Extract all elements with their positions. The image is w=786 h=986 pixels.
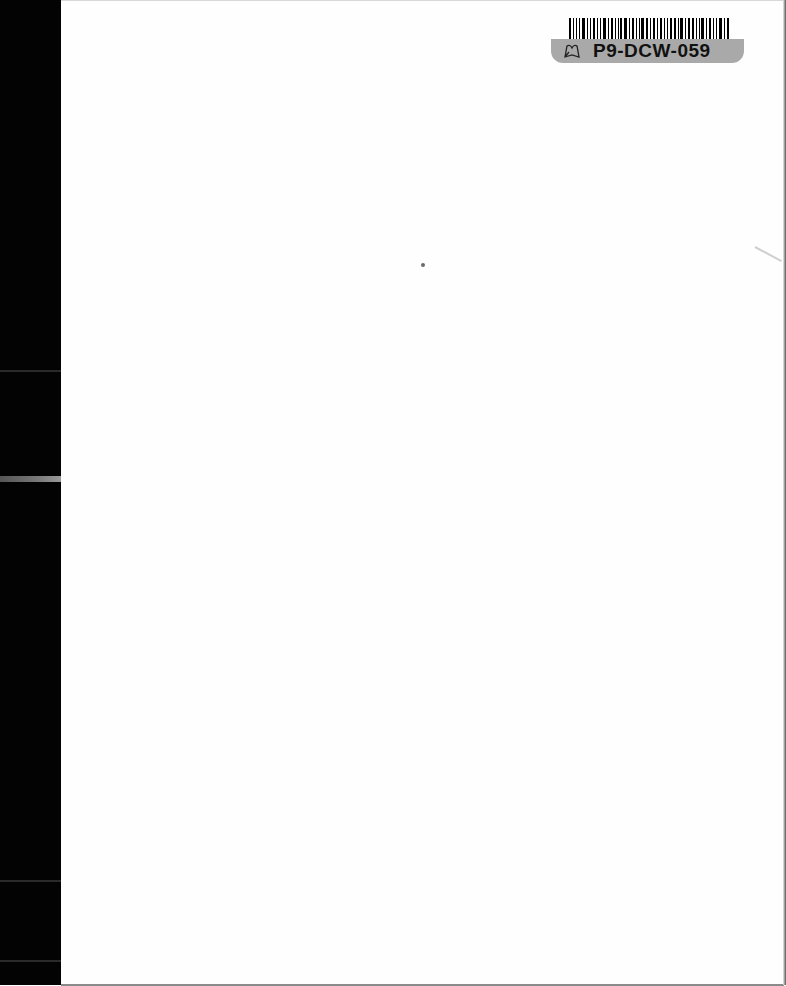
scan-artifact-line	[0, 476, 61, 482]
book-leaf-icon	[563, 43, 581, 59]
barcode-bar	[629, 18, 630, 40]
barcode-bar	[603, 18, 606, 40]
barcode-bar	[611, 18, 613, 40]
barcode-bar	[650, 18, 651, 40]
barcode-bar	[582, 18, 585, 40]
dust-speck	[421, 263, 425, 267]
barcode-bar	[660, 18, 663, 40]
barcode-bar	[653, 18, 655, 40]
barcode-bar	[699, 18, 700, 40]
barcode-bar	[587, 18, 588, 40]
barcode-bar	[716, 18, 718, 40]
scan-artifact-line	[0, 960, 61, 962]
barcode-bar	[674, 18, 676, 40]
barcode-bar	[713, 18, 714, 40]
barcode-bar	[727, 18, 729, 40]
barcode-bar	[685, 18, 686, 40]
barcode-bar	[709, 18, 711, 40]
barcode-bar	[593, 18, 595, 40]
barcode-bar	[688, 18, 690, 40]
scan-edge-left	[0, 0, 61, 985]
barcode-bar	[636, 18, 637, 40]
barcode-bar	[615, 18, 616, 40]
barcode-bar	[576, 18, 578, 40]
barcode-bar	[639, 18, 640, 40]
barcode-bar	[680, 18, 683, 40]
barcode-bar	[670, 18, 672, 40]
barcode-bar	[624, 18, 627, 40]
barcode-bar	[573, 18, 574, 40]
barcode-bar	[600, 18, 601, 40]
scan-artifact-line	[0, 370, 61, 372]
barcode-bar	[632, 18, 634, 40]
barcode-bar	[692, 18, 694, 40]
barcode-bar	[696, 18, 697, 40]
barcode-bar	[597, 18, 599, 40]
barcode-bar	[657, 18, 658, 40]
item-code: P9-DCW-059	[593, 40, 711, 62]
barcode-label: P9-DCW-059	[551, 39, 744, 63]
barcode-bar	[641, 18, 644, 40]
barcode-bar	[724, 18, 725, 40]
barcode-bar	[590, 18, 591, 40]
barcode	[569, 18, 731, 40]
blank-page	[61, 0, 784, 986]
barcode-bar	[620, 18, 622, 40]
barcode-bar	[706, 18, 707, 40]
barcode-bar	[719, 18, 722, 40]
barcode-bar	[667, 18, 668, 40]
barcode-bar	[608, 18, 609, 40]
barcode-bar	[646, 18, 648, 40]
scan-artifact-line	[0, 880, 61, 882]
barcode-bar	[701, 18, 704, 40]
barcode-bar	[678, 18, 679, 40]
barcode-bar	[618, 18, 619, 40]
barcode-bar	[579, 18, 580, 40]
barcode-bar	[664, 18, 665, 40]
barcode-bar	[569, 18, 571, 40]
